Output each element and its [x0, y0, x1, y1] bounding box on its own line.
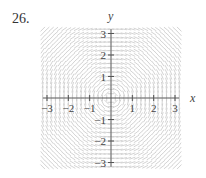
y-tick-label: 3 [101, 28, 107, 40]
x-tick-label: −2 [62, 102, 74, 114]
y-tick-label: −3 [94, 157, 106, 169]
x-tick-label: −3 [41, 102, 53, 114]
y-tick-label: −2 [94, 135, 106, 147]
x-tick-label: 2 [151, 102, 157, 114]
x-axis-label: x [189, 91, 196, 105]
y-axis-label: y [107, 9, 114, 23]
x-tick-label: 3 [172, 102, 178, 114]
y-tick-label: −1 [94, 114, 106, 126]
y-tick-label: 1 [101, 71, 107, 83]
y-tick-label: 2 [101, 49, 107, 61]
x-tick-label: −1 [84, 102, 96, 114]
x-tick-label: 1 [130, 102, 136, 114]
slope-field-chart: −3−2−1123−3−2−1123 x y [0, 0, 206, 178]
